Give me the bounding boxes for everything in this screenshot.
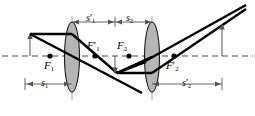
- label-f2-prime: F′2: [166, 60, 179, 71]
- ray-chief-extended: [72, 56, 142, 93]
- label-s2-prime: s′2: [182, 78, 191, 88]
- label-s1-prime: s′1: [86, 13, 95, 23]
- focal-point-f2-prime-dot: [171, 53, 176, 58]
- focal-point-f2-dot: [126, 53, 131, 58]
- optics-ray-diagram: F1 F′1 F2 F′2 s1 s′1 s2 s′2: [0, 0, 255, 116]
- label-f1: F1: [44, 60, 54, 71]
- label-s2: s2: [126, 13, 133, 23]
- dimension-s2p-arrowhead-right: [215, 82, 221, 87]
- dimension-s1-arrowhead-left: [27, 82, 33, 87]
- label-f2: F2: [117, 40, 127, 51]
- dimension-s1p-arrowhead-right: [108, 20, 114, 25]
- label-s1: s1: [41, 78, 48, 88]
- focal-point-f1-dot: [47, 53, 52, 58]
- dimension-s2-arrowhead-left: [116, 20, 122, 25]
- label-f1-prime: F′1: [87, 40, 100, 51]
- focal-point-f1-prime-dot: [92, 53, 97, 58]
